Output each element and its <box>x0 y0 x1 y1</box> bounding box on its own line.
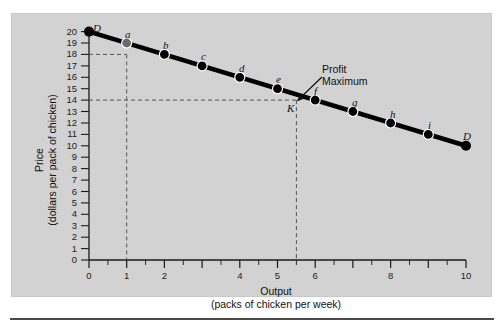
point-label-i: i <box>428 119 431 131</box>
page-background: 0 1 2 3 4 5 6 7 8 9 10 11 12 13 14 15 16… <box>0 0 504 327</box>
page-bottom-rule <box>10 318 494 320</box>
point-label-h: h <box>390 108 396 120</box>
y-axis-title-main: Price <box>33 94 46 225</box>
xtick-label-4: 4 <box>229 271 251 281</box>
ytick-label-18: 18 <box>55 49 77 59</box>
y-axis-title-sub: (dollars per pack of chicken) <box>46 94 59 225</box>
data-point-g <box>348 107 358 117</box>
ytick-label-1: 1 <box>55 244 77 254</box>
xtick-label-5: 5 <box>267 271 289 281</box>
ytick-label-0: 0 <box>55 255 77 265</box>
point-label-e: e <box>276 73 281 85</box>
point-label-b: b <box>163 39 169 51</box>
point-label-d: d <box>239 62 245 74</box>
x-axis-title-main: Output <box>161 285 391 298</box>
x-axis-title: Output (packs of chicken per week) <box>161 285 391 311</box>
point-label-c: c <box>201 50 206 62</box>
chart-plot-area <box>11 13 492 297</box>
ytick-label-16: 16 <box>55 72 77 82</box>
xtick-label-0: 0 <box>78 271 100 281</box>
y-axis-title: Price (dollars per pack of chicken) <box>33 85 59 235</box>
y-axis-ticks <box>81 32 89 260</box>
point-label-a: a <box>125 28 131 40</box>
data-point-e <box>273 84 283 94</box>
ytick-label-20: 20 <box>55 27 77 37</box>
xtick-label-2: 2 <box>153 271 175 281</box>
annotation-line-2: Maximum <box>322 75 368 87</box>
figure-panel: 0 1 2 3 4 5 6 7 8 9 10 11 12 13 14 15 16… <box>11 13 492 297</box>
ytick-label-19: 19 <box>55 38 77 48</box>
data-point-c <box>197 61 207 71</box>
xtick-label-8: 8 <box>380 271 402 281</box>
ytick-label-17: 17 <box>55 61 77 71</box>
x-axis-ticks <box>89 260 466 268</box>
x-axis-title-sub: (packs of chicken per week) <box>161 298 391 311</box>
point-label-f: f <box>314 85 317 97</box>
xtick-label-10: 10 <box>455 271 477 281</box>
profit-maximum-annotation: Profit Maximum <box>322 63 368 87</box>
xtick-label-1: 1 <box>116 271 138 281</box>
series-label-end: D <box>463 130 471 142</box>
data-point-d10 <box>461 141 471 151</box>
point-label-g: g <box>352 96 358 108</box>
annotation-line-1: Profit <box>322 63 368 75</box>
chart-svg <box>11 13 492 297</box>
axis-lines <box>89 31 466 260</box>
xtick-label-6: 6 <box>304 271 326 281</box>
marker-label-k: K <box>287 102 294 114</box>
series-label-start: D <box>93 22 101 34</box>
data-points <box>84 27 471 151</box>
